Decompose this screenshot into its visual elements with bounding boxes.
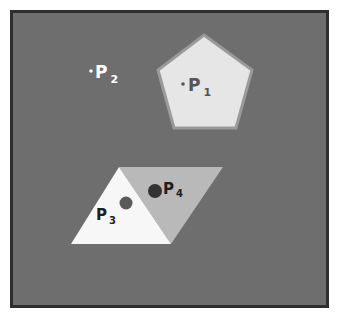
point-p3-dot (120, 197, 133, 210)
point-p4-dot (148, 184, 162, 198)
frame-background (13, 13, 326, 305)
point-p1-dot (181, 82, 185, 86)
diagram-canvas: P1 P2 P3 P4 (0, 0, 337, 318)
point-p2-dot (89, 69, 93, 73)
